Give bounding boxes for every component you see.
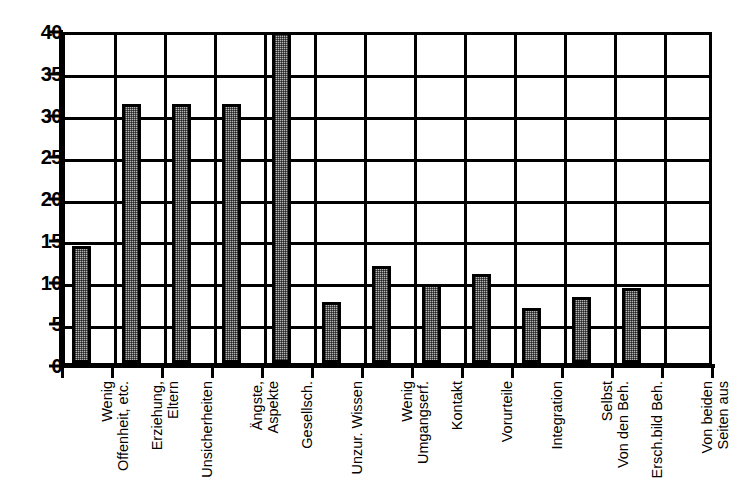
category-separator	[564, 35, 567, 363]
category-separator	[614, 35, 617, 363]
category-separator	[364, 35, 367, 363]
y-axis-tick-mark	[49, 72, 59, 75]
gridline	[65, 117, 709, 120]
bar	[122, 104, 141, 363]
x-axis-tick-mark	[311, 368, 314, 378]
category-separator	[114, 35, 117, 363]
x-axis-tick-mark	[261, 368, 264, 378]
x-axis-category-label: Ängste, Aspekte	[249, 381, 281, 499]
y-axis-tick-mark	[49, 365, 59, 368]
category-separator	[464, 35, 467, 363]
bar-chart-figure: 0510152025303540 Wenig Offenheit, etc.Er…	[0, 0, 735, 504]
x-axis-tick-mark	[411, 368, 414, 378]
x-axis-category-label: Von beiden Seiten aus	[699, 381, 731, 499]
x-axis-tick-mark	[361, 368, 364, 378]
category-separator	[214, 35, 217, 363]
bar	[272, 32, 291, 363]
bar	[72, 246, 91, 363]
category-separator	[314, 35, 317, 363]
x-axis-tick-mark	[711, 368, 714, 378]
y-axis-tick-mark	[49, 323, 59, 326]
y-axis-tick-mark	[49, 239, 59, 242]
bar	[372, 266, 391, 363]
category-separator	[414, 35, 417, 363]
x-axis-category-label: Unsicherheiten	[199, 381, 215, 499]
x-axis-category-label: Unzur. Wissen	[349, 381, 365, 499]
bar	[622, 288, 641, 363]
plot-area	[62, 32, 712, 366]
bar	[572, 297, 591, 363]
bar	[422, 284, 441, 363]
y-axis-tick-mark	[49, 281, 59, 284]
x-axis-category-label: Integration	[549, 381, 565, 499]
x-axis-category-label: Wenig Offenheit, etc.	[99, 381, 131, 499]
gridline	[65, 242, 709, 245]
x-axis-tick-mark	[111, 368, 114, 378]
y-axis-tick-mark	[49, 156, 59, 159]
category-separator	[164, 35, 167, 363]
bar	[472, 274, 491, 363]
y-axis-tick-mark	[49, 198, 59, 201]
x-axis-tick-mark	[561, 368, 564, 378]
category-separator	[264, 35, 267, 363]
y-axis-tick-mark	[49, 31, 59, 34]
x-axis-line	[59, 364, 715, 368]
y-axis-tick-mark	[49, 114, 59, 117]
x-axis-tick-mark	[211, 368, 214, 378]
x-axis-category-label: Ersch.bild Beh.	[649, 381, 665, 499]
x-axis-tick-mark	[661, 368, 664, 378]
bar	[222, 104, 241, 363]
bar	[522, 308, 541, 363]
gridline	[65, 201, 709, 204]
category-separator	[514, 35, 517, 363]
x-axis-category-label: Selbst Von den Beh.	[599, 381, 631, 499]
bar	[172, 104, 191, 363]
bar	[322, 302, 341, 363]
x-axis-tick-mark	[61, 368, 64, 378]
y-axis: 0510152025303540	[0, 0, 62, 504]
x-axis-tick-mark	[511, 368, 514, 378]
category-separator	[664, 35, 667, 363]
x-axis-category-label: Kontakt	[449, 381, 465, 499]
gridline	[65, 159, 709, 162]
x-axis-tick-mark	[461, 368, 464, 378]
x-axis-category-label: Wenig Umgangserf.	[399, 381, 431, 499]
x-axis-category-label: Gesellsch.	[299, 381, 315, 499]
gridline	[65, 75, 709, 78]
x-axis-category-label: Erziehung, Eltern	[149, 381, 181, 499]
x-axis-category-label: Vorurteile	[499, 381, 515, 499]
x-axis-tick-mark	[611, 368, 614, 378]
x-axis-tick-mark	[161, 368, 164, 378]
